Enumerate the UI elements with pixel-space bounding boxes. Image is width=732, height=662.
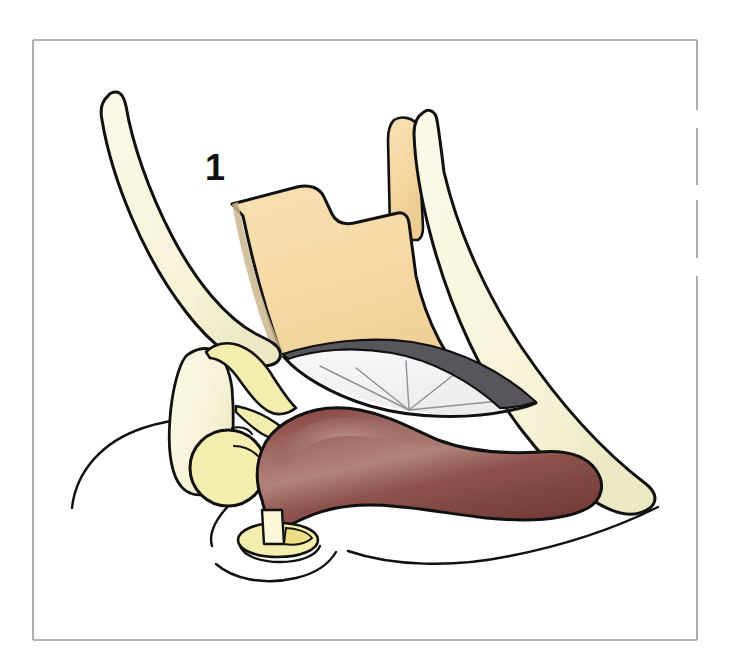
anatomical-illustration: 1 xyxy=(0,0,732,662)
figure-container: 1 xyxy=(0,0,732,662)
disc-peg xyxy=(262,510,284,544)
circular-body xyxy=(190,430,266,506)
figure-label-1: 1 xyxy=(205,147,225,188)
